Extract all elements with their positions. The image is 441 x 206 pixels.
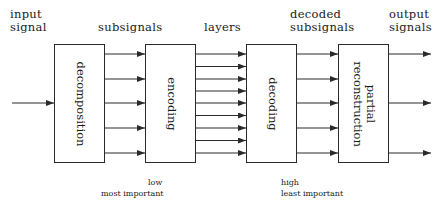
decomposition-block: decomposition (54, 44, 105, 163)
most-important-label: most important (101, 189, 164, 199)
subsignal-arrows (104, 54, 145, 153)
output-arrows (388, 54, 431, 153)
decoding-block: decoding (246, 44, 297, 163)
least-important-label: least important (281, 189, 343, 199)
decomposition-label: decomposition (73, 61, 86, 146)
encoding-label: encoding (164, 77, 177, 130)
decoded-subsignal-arrows (296, 54, 338, 153)
layer-arrows (195, 54, 246, 153)
signal-coding-diagram: input signal subsignals layers decoded s… (0, 0, 441, 206)
partial-reconstruction-block: partial reconstruction (338, 44, 389, 163)
partial-reconstruction-label-line2: reconstruction (351, 61, 364, 147)
high-label: high (281, 178, 299, 188)
encoding-block: encoding (145, 44, 196, 163)
partial-reconstruction-label: partial reconstruction (351, 61, 377, 147)
partial-reconstruction-label-line1: partial (364, 61, 377, 147)
low-label: low (148, 178, 162, 188)
decoding-label: decoding (265, 77, 278, 130)
